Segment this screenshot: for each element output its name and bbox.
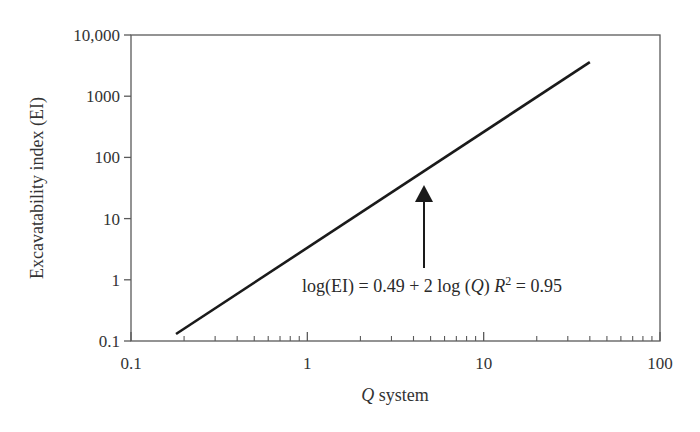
y-tick-label: 0.1 xyxy=(99,332,120,351)
y-tick-label: 10 xyxy=(103,210,120,229)
x-axis: 0.1110100 xyxy=(120,332,672,373)
y-axis-title: Excavatability index (EI) xyxy=(27,97,48,279)
x-tick-label: 10 xyxy=(475,354,492,373)
x-tick-label: 1 xyxy=(303,354,312,373)
arrow-head-icon xyxy=(415,185,433,202)
x-axis-title: Q system xyxy=(361,385,429,405)
annotation-arrow xyxy=(415,185,433,268)
chart: 0.1110100100010,000 0.1110100 log(EI) = … xyxy=(0,0,700,432)
equation-annotation: log(EI) = 0.49 + 2 log (Q) R2 = 0.95 xyxy=(302,274,562,297)
y-tick-label: 100 xyxy=(95,148,121,167)
x-tick-label: 100 xyxy=(647,354,673,373)
y-tick-label: 1 xyxy=(112,271,121,290)
y-tick-label: 10,000 xyxy=(73,26,120,45)
x-tick-label: 0.1 xyxy=(120,354,141,373)
y-axis: 0.1110100100010,000 xyxy=(73,26,131,351)
y-tick-label: 1000 xyxy=(86,87,120,106)
